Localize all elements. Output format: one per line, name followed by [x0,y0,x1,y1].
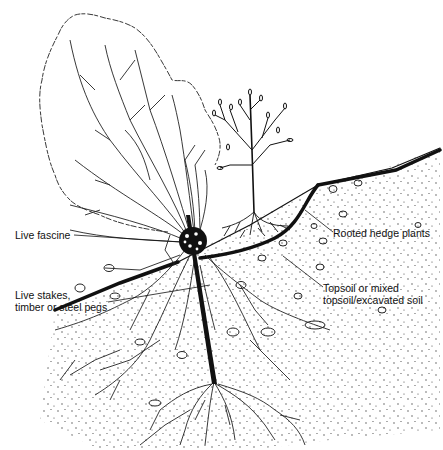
hedge-plant [213,89,294,212]
label-topsoil-line2: topsoil/excavated soil [323,294,423,306]
label-rooted-hedge-plants: Rooted hedge plants [333,227,430,239]
label-live-stakes-line1: Live stakes, [15,289,70,301]
shrub-canopy-outline [40,14,220,232]
live-fascine-diagram [0,0,443,450]
label-live-stakes-line2: timber or steel pegs [15,301,107,313]
label-live-fascine: Live fascine [15,229,70,241]
live-fascine-bundle [179,227,207,255]
label-topsoil-line1: Topsoil or mixed [323,282,399,294]
